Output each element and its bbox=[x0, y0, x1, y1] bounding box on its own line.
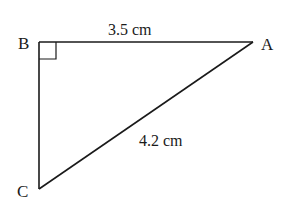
side-label-ac: 4.2 cm bbox=[139, 132, 183, 149]
triangle bbox=[39, 42, 253, 189]
right-angle-marker bbox=[39, 42, 56, 59]
triangle-diagram: B A C 3.5 cm 4.2 cm bbox=[0, 0, 287, 199]
vertex-label-a: A bbox=[261, 35, 274, 54]
vertex-label-b: B bbox=[18, 34, 29, 53]
vertex-label-c: C bbox=[17, 182, 28, 199]
side-ac bbox=[39, 42, 253, 189]
side-label-ab: 3.5 cm bbox=[108, 21, 152, 38]
